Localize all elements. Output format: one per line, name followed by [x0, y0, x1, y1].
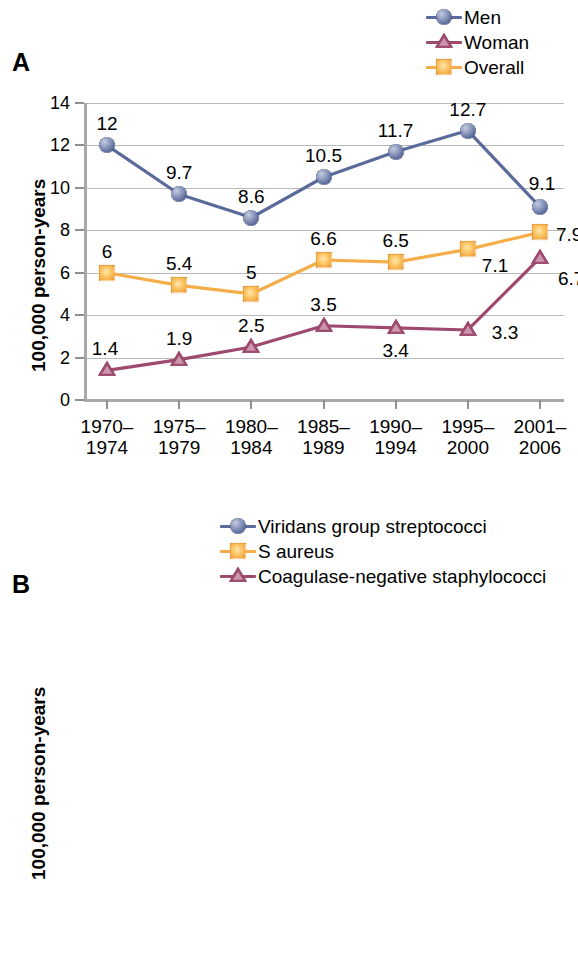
- x-axis-tick-label: 1970– 1974: [81, 416, 134, 458]
- triangle-marker-icon: [315, 316, 333, 331]
- square-marker-icon: [388, 255, 403, 270]
- y-axis-tick-label: 4: [26, 306, 70, 324]
- data-point-label: 1.4: [92, 339, 118, 358]
- data-point-label: 3.3: [492, 322, 518, 341]
- y-axis-tick: [75, 272, 84, 274]
- data-point-label: 11.7: [378, 120, 414, 139]
- triangle-marker-icon: [459, 321, 477, 336]
- y-axis-tick: [75, 357, 84, 359]
- x-axis-tick-label: 1980– 1984: [225, 416, 278, 458]
- legend-label: Overall: [464, 57, 524, 78]
- square-marker-icon: [316, 252, 331, 267]
- y-axis-tick: [75, 399, 84, 401]
- panel-a-plot-area: 024681012141970– 19741975– 19791980– 198…: [84, 103, 564, 400]
- legend-marker: [218, 515, 258, 537]
- triangle-marker-icon: [531, 249, 549, 264]
- data-point-label: 9.7: [166, 163, 192, 182]
- legend-item: Coagulase-negative staphylococci: [218, 564, 546, 588]
- square-marker-icon: [437, 60, 452, 75]
- legend-marker: [424, 31, 464, 53]
- legend-item: S aureus: [218, 539, 546, 563]
- data-point-label: 9.1: [529, 173, 555, 192]
- circle-marker-icon: [231, 519, 246, 534]
- data-point-label: 3.4: [382, 340, 408, 359]
- legend-item: Overall: [424, 55, 529, 79]
- x-axis-tick: [106, 400, 108, 409]
- x-axis-tick: [539, 400, 541, 409]
- y-axis-tick-label: 6: [26, 264, 70, 282]
- circle-marker-icon: [533, 199, 548, 214]
- y-axis-tick: [75, 229, 84, 231]
- data-point-label: 10.5: [305, 146, 342, 165]
- circle-marker-icon: [244, 210, 259, 225]
- data-point-label: 6.5: [382, 231, 408, 250]
- x-axis-tick: [178, 400, 180, 409]
- panel-a-letter: A: [12, 50, 30, 75]
- panel-b-legend: Viridans group streptococciS aureusCoagu…: [218, 514, 546, 588]
- y-axis-tick: [75, 144, 84, 146]
- square-marker-icon: [172, 278, 187, 293]
- data-point-label: 6: [102, 241, 113, 260]
- y-axis-tick-label: 8: [26, 221, 70, 239]
- x-axis-tick-label: 1975– 1979: [153, 416, 206, 458]
- square-marker-icon: [460, 242, 475, 257]
- panel-a-legend: MenWomanOverall: [424, 5, 529, 79]
- legend-marker: [424, 56, 464, 78]
- data-point-label: 7.9: [556, 225, 578, 244]
- legend-label: Men: [464, 7, 501, 28]
- legend-label: Coagulase-negative staphylococci: [258, 566, 546, 587]
- data-point-label: 6.6: [310, 228, 336, 247]
- triangle-marker-icon: [242, 338, 260, 353]
- data-point-label: 2.5: [238, 315, 264, 334]
- y-axis-tick-label: 10: [26, 179, 70, 197]
- circle-marker-icon: [388, 144, 403, 159]
- triangle-marker-icon: [229, 567, 247, 582]
- circle-marker-icon: [172, 187, 187, 202]
- legend-marker: [218, 540, 258, 562]
- circle-marker-icon: [460, 123, 475, 138]
- data-point-label: 12.7: [449, 99, 486, 118]
- data-point-label: 8.6: [238, 186, 264, 205]
- data-point-label: 6.7: [558, 268, 578, 287]
- legend-item: Woman: [424, 30, 529, 54]
- legend-marker: [424, 6, 464, 28]
- panel-b-y-axis-title: 100,000 person-years: [28, 687, 50, 880]
- triangle-marker-icon: [98, 361, 116, 376]
- panel-b: B Viridans group streptococciS aureusCoa…: [0, 500, 578, 972]
- x-axis-tick-label: 1990– 1994: [369, 416, 422, 458]
- square-marker-icon: [533, 225, 548, 240]
- legend-label: Viridans group streptococci: [258, 516, 487, 537]
- y-axis-tick-label: 12: [26, 136, 70, 154]
- x-axis-tick-label: 1985– 1989: [297, 416, 350, 458]
- square-marker-icon: [231, 544, 246, 559]
- legend-label: S aureus: [258, 541, 334, 562]
- circle-marker-icon: [100, 138, 115, 153]
- data-point-label: 1.9: [166, 328, 192, 347]
- legend-item: Men: [424, 5, 529, 29]
- legend-label: Woman: [464, 32, 529, 53]
- x-axis-tick: [395, 400, 397, 409]
- x-axis-tick: [323, 400, 325, 409]
- x-axis-tick: [250, 400, 252, 409]
- data-point-label: 7.1: [482, 256, 508, 275]
- legend-item: Viridans group streptococci: [218, 514, 546, 538]
- y-axis-tick: [75, 187, 84, 189]
- data-point-label: 5.4: [166, 254, 192, 273]
- circle-marker-icon: [316, 170, 331, 185]
- data-point-label: 5: [246, 262, 257, 281]
- data-point-label: 12: [96, 114, 117, 133]
- legend-marker: [218, 565, 258, 587]
- y-axis-tick-label: 14: [26, 94, 70, 112]
- y-axis-tick: [75, 102, 84, 104]
- triangle-marker-icon: [387, 319, 405, 334]
- panel-a: A MenWomanOverall 100,000 person-years 0…: [0, 0, 578, 500]
- x-axis-tick: [467, 400, 469, 409]
- y-axis-tick-label: 0: [26, 391, 70, 409]
- y-axis-tick-label: 2: [26, 349, 70, 367]
- data-point-label: 3.5: [310, 294, 336, 313]
- square-marker-icon: [100, 265, 115, 280]
- panel-b-letter: B: [12, 572, 30, 597]
- x-axis-tick-label: 2001– 2006: [514, 416, 567, 458]
- triangle-marker-icon: [170, 350, 188, 365]
- x-axis-tick-label: 1995– 2000: [441, 416, 494, 458]
